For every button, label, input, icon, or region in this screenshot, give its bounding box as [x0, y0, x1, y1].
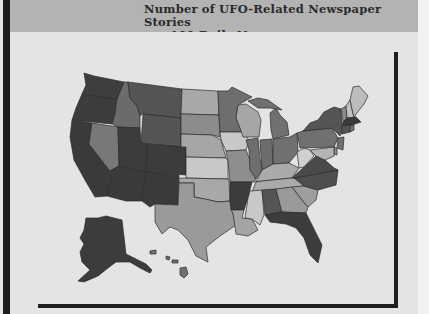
state-ks	[186, 157, 228, 179]
state-sd	[181, 114, 220, 137]
state-nd	[181, 89, 219, 115]
state-hi-4	[180, 267, 188, 278]
frame-bottom-rule	[38, 304, 398, 308]
state-hi-1	[150, 250, 156, 254]
state-me	[350, 86, 368, 118]
state-ak	[78, 216, 152, 282]
state-nj	[337, 137, 344, 150]
state-hi-3	[172, 260, 178, 263]
state-de	[334, 147, 337, 155]
state-fl	[265, 212, 322, 263]
state-wy	[141, 114, 181, 147]
state-ne	[181, 134, 226, 158]
state-ri	[350, 125, 354, 132]
state-az	[107, 166, 146, 201]
state-co	[146, 144, 186, 175]
frame-right-rule	[394, 52, 398, 308]
state-nm	[142, 172, 179, 207]
us-choropleth-map	[0, 0, 429, 314]
state-ct	[342, 125, 350, 134]
state-or	[72, 94, 117, 124]
state-mi	[270, 108, 289, 139]
state-mi-up	[248, 98, 282, 110]
state-hi-2	[166, 256, 170, 260]
